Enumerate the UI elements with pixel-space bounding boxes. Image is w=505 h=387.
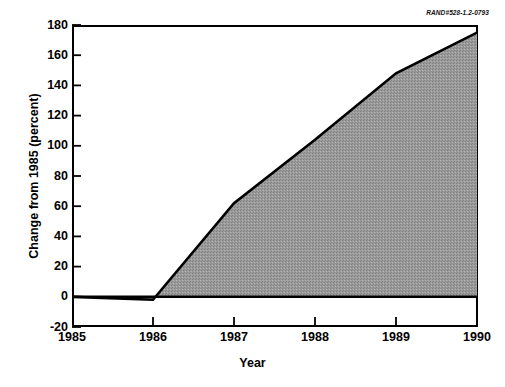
x-tick-1986: 1986 — [123, 331, 183, 344]
y-tick-180: 180 — [34, 19, 68, 32]
y-axis-title: Change from 1985 (percent) — [27, 46, 41, 306]
x-tick-1989: 1989 — [366, 331, 426, 344]
x-tick-1990: 1990 — [447, 331, 505, 344]
x-tick-1985: 1985 — [42, 331, 102, 344]
plot-area-frame — [72, 25, 478, 327]
chart-figure: RAND#528-1.2-0793 — [0, 0, 505, 387]
x-tick-1988: 1988 — [285, 331, 345, 344]
x-axis-title: Year — [0, 356, 505, 370]
x-tick-1987: 1987 — [204, 331, 264, 344]
figure-source-code: RAND#528-1.2-0793 — [426, 9, 489, 16]
